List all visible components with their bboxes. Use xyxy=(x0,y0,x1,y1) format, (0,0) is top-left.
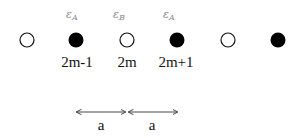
site-2 xyxy=(120,33,134,47)
site-5 xyxy=(271,33,286,48)
chain-diagram: εA εB εA 2m-1 2m 2m+1 a a xyxy=(0,0,300,138)
open-circle-icon xyxy=(20,33,34,47)
open-circle-icon xyxy=(120,33,134,47)
spacing-label-right: a xyxy=(149,117,156,133)
open-circle-icon xyxy=(221,33,235,47)
index-label-2m-1: 2m-1 xyxy=(61,54,93,70)
filled-circle-icon xyxy=(271,33,286,48)
site-3 xyxy=(170,33,185,48)
spacing-label-left: a xyxy=(98,117,105,133)
index-label-2m: 2m xyxy=(117,54,137,70)
filled-circle-icon xyxy=(170,33,185,48)
site-1 xyxy=(69,33,84,48)
site-0 xyxy=(20,33,34,47)
energy-label-site-2: εB xyxy=(113,8,125,22)
index-label-2m+1: 2m+1 xyxy=(158,54,193,70)
filled-circle-icon xyxy=(69,33,84,48)
energy-label-site-3: εA xyxy=(163,8,175,22)
energy-label-site-1: εA xyxy=(66,8,78,22)
site-4 xyxy=(221,33,235,47)
